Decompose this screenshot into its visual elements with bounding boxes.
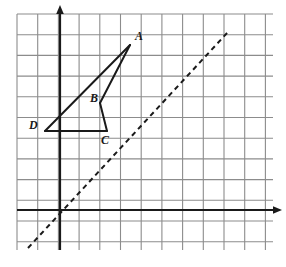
vertex-label-c: C [101,134,109,146]
edge-AB [100,45,130,103]
axes-group [17,5,282,250]
edge-DA [45,45,130,131]
shape-outline [45,45,130,131]
x-axis-arrowhead [273,206,282,214]
y-axis-arrowhead [56,5,64,14]
vertex-label-d: D [29,119,38,131]
vertex-label-b: B [90,92,98,104]
vertex-label-a: A [135,30,143,42]
diagram-stage: ABCD [0,0,286,267]
